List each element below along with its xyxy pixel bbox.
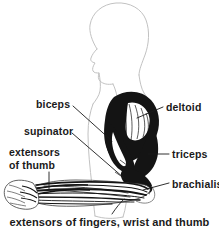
- hand-fist: [4, 180, 39, 209]
- label-biceps: biceps: [36, 98, 70, 110]
- arm-anatomy-illustration: [0, 0, 219, 232]
- figure-caption: extensors of fingers, wrist and thumb: [0, 216, 219, 228]
- label-triceps: triceps: [172, 148, 207, 160]
- label-supinator: supinator: [24, 125, 73, 137]
- label-deltoid: deltoid: [166, 101, 201, 113]
- label-brachialis: brachialis: [172, 178, 219, 190]
- anatomy-figure: biceps supinator extensors of thumb delt…: [0, 0, 219, 232]
- label-extensors-of-thumb: extensors of thumb: [9, 146, 71, 171]
- forearm-musculature: [26, 180, 150, 206]
